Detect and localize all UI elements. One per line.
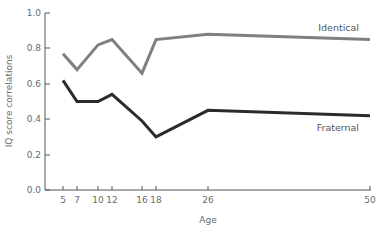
x-axis-title: Age — [199, 215, 217, 225]
x-tick-label: 5 — [60, 195, 66, 205]
y-axis-title: IQ score correlations — [4, 54, 14, 147]
y-tick-label: 0.8 — [27, 43, 42, 53]
fraternal-series-label: Fraternal — [317, 122, 359, 133]
y-tick-label: 0.0 — [27, 185, 42, 195]
x-tick-label: 26 — [202, 195, 214, 205]
line-chart: 0.0 0.2 0.4 0.6 0.8 1.0 5 7 10 12 16 18 … — [0, 0, 382, 232]
x-tick-label: 7 — [74, 195, 80, 205]
identical-series-label: Identical — [318, 22, 359, 33]
y-ticks: 0.0 0.2 0.4 0.6 0.8 1.0 — [27, 8, 50, 195]
x-tick-label: 16 — [136, 195, 148, 205]
y-tick-label: 1.0 — [27, 8, 42, 18]
identical-series-line — [63, 34, 370, 73]
x-tick-label: 10 — [92, 195, 104, 205]
y-tick-label: 0.4 — [27, 114, 42, 124]
x-tick-label: 12 — [106, 195, 117, 205]
x-tick-label: 18 — [150, 195, 162, 205]
x-tick-label: 50 — [364, 195, 376, 205]
y-tick-label: 0.6 — [27, 79, 42, 89]
x-ticks: 5 7 10 12 16 18 26 50 — [60, 186, 376, 205]
y-tick-label: 0.2 — [27, 150, 41, 160]
